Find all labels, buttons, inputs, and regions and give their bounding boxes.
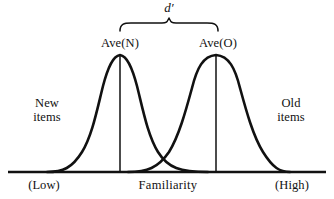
mean-label-new-items: Ave(N) bbox=[101, 36, 139, 50]
old-items-label-line-2: items bbox=[277, 110, 305, 124]
signal-detection-figure: d′ Ave(N) Ave(O) New items Old items (Lo… bbox=[0, 0, 334, 199]
old-items-distribution-curve bbox=[128, 55, 290, 172]
dprime-label: d′ bbox=[164, 1, 174, 16]
old-items-label-line-1: Old bbox=[277, 96, 305, 110]
new-items-label-line-1: New bbox=[33, 96, 61, 110]
axis-title-familiarity: Familiarity bbox=[139, 178, 198, 192]
axis-label-low: (Low) bbox=[28, 178, 60, 192]
old-items-curve-label: Old items bbox=[277, 96, 305, 124]
axis-label-high: (High) bbox=[275, 178, 309, 192]
new-items-curve-label: New items bbox=[33, 96, 61, 124]
mean-label-old-items: Ave(O) bbox=[199, 36, 237, 50]
dprime-brace bbox=[120, 18, 218, 31]
new-items-label-line-2: items bbox=[33, 110, 61, 124]
